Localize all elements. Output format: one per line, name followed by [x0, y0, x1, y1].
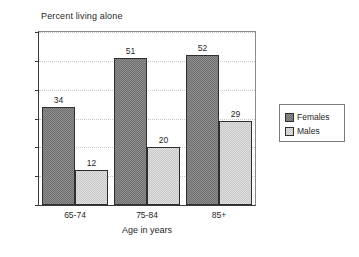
- legend-swatch-icon: [285, 127, 294, 136]
- x-axis-tick-label: 85+: [183, 210, 255, 220]
- bar-males-75-84: [147, 147, 180, 205]
- x-axis-title: Age in years: [38, 225, 256, 235]
- bar-value-label: 52: [186, 43, 219, 53]
- chart-title: Percent living alone: [41, 11, 123, 21]
- legend-label: Males: [297, 127, 320, 136]
- bar-females-85+: [186, 55, 219, 205]
- y-axis-tick-mark: [35, 61, 38, 62]
- x-axis-tick-label: 65-74: [39, 210, 111, 220]
- bar-value-label: 51: [114, 46, 147, 56]
- y-axis-tick-mark: [35, 119, 38, 120]
- legend-swatch-icon: [285, 113, 294, 122]
- bar-value-label: 20: [147, 135, 180, 145]
- bar-value-label: 29: [219, 109, 252, 119]
- y-axis-tick-mark: [35, 176, 38, 177]
- bar-females-75-84: [114, 58, 147, 205]
- y-axis-tick-mark: [35, 32, 38, 33]
- bar-value-label: 12: [75, 158, 108, 168]
- bar-males-65-74: [75, 170, 108, 205]
- plot-area: 341251205229: [38, 31, 256, 206]
- y-axis-tick-mark: [35, 205, 38, 206]
- chart-legend: FemalesMales: [279, 104, 345, 142]
- legend-label: Females: [297, 113, 330, 122]
- gridline: [39, 61, 255, 62]
- y-axis-tick-mark: [35, 90, 38, 91]
- bar-value-label: 34: [42, 95, 75, 105]
- legend-item-females[interactable]: Females: [285, 110, 344, 124]
- gridline: [39, 32, 255, 33]
- bar-chart: Percent living alone 341251205229 010203…: [0, 0, 359, 257]
- x-axis-tick-label: 75-84: [111, 210, 183, 220]
- bar-males-85+: [219, 121, 252, 205]
- gridline: [39, 90, 255, 91]
- bar-females-65-74: [42, 107, 75, 205]
- plot-inner: 341251205229: [39, 32, 255, 205]
- legend-item-males[interactable]: Males: [285, 124, 344, 138]
- y-axis-tick-mark: [35, 147, 38, 148]
